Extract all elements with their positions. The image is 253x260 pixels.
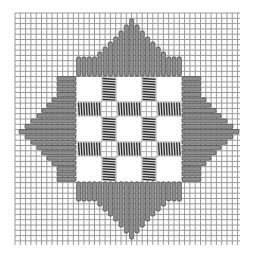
top-triangle-stitch bbox=[135, 25, 139, 76]
intersection-background bbox=[141, 101, 157, 117]
coil-stitch bbox=[172, 143, 173, 156]
coil-stitch bbox=[92, 143, 93, 156]
coil-stitch bbox=[103, 166, 116, 167]
coil-stitch bbox=[143, 92, 156, 93]
right-triangle-stitch bbox=[182, 87, 201, 91]
coil-stitch bbox=[143, 97, 156, 98]
coil-stitch bbox=[143, 121, 156, 122]
coil-stitch bbox=[143, 99, 156, 100]
coil-stitch bbox=[126, 103, 127, 116]
left-triangle-stitch bbox=[31, 119, 76, 123]
coil-stitch bbox=[103, 99, 116, 100]
coil-stitch bbox=[94, 143, 95, 156]
bottom-triangle-stitch bbox=[93, 182, 97, 201]
top-triangle-stitch bbox=[151, 42, 155, 76]
coil-stitch bbox=[97, 103, 98, 116]
coil-stitch bbox=[103, 137, 116, 138]
right-triangle-stitch bbox=[182, 167, 201, 171]
coil-stitch bbox=[134, 103, 135, 116]
window-opening bbox=[157, 157, 181, 181]
bottom-triangle-stitch bbox=[98, 182, 102, 206]
left-triangle-stitch bbox=[37, 114, 76, 118]
coil-stitch bbox=[94, 103, 95, 116]
left-triangle-stitch bbox=[57, 177, 76, 181]
coil-stitch bbox=[143, 161, 156, 162]
coil-stitch bbox=[159, 143, 160, 156]
intersection-background bbox=[141, 141, 157, 157]
bar-intersection bbox=[101, 101, 117, 117]
window-opening bbox=[157, 117, 181, 141]
right-triangle-stitch bbox=[182, 93, 201, 97]
coil-stitch bbox=[103, 97, 116, 98]
coil-stitch bbox=[143, 132, 156, 133]
coil-stitch bbox=[89, 103, 90, 116]
coil-stitch bbox=[143, 137, 156, 138]
bar-vertical-coils bbox=[117, 101, 141, 117]
bar-horizontal-coils bbox=[141, 117, 157, 141]
coil-stitch bbox=[143, 177, 156, 178]
coil-stitch bbox=[143, 119, 156, 120]
coil-stitch bbox=[159, 103, 160, 116]
coil-stitch bbox=[132, 103, 133, 116]
left-triangle-stitch bbox=[37, 146, 76, 150]
right-triangle-stitch bbox=[182, 103, 211, 107]
bottom-triangle-stitch bbox=[82, 182, 86, 201]
coil-stitch bbox=[86, 103, 87, 116]
coil-stitch bbox=[103, 132, 116, 133]
bar-horizontal-coils bbox=[101, 77, 117, 101]
top-triangle-stitch bbox=[177, 57, 181, 76]
coil-stitch bbox=[143, 79, 156, 80]
coil-stitch bbox=[137, 143, 138, 156]
bottom-triangle-stitch bbox=[172, 182, 176, 201]
top-triangle-stitch bbox=[167, 57, 171, 76]
coil-stitch bbox=[143, 172, 156, 173]
coil-stitch bbox=[139, 143, 140, 156]
coil-stitch bbox=[143, 89, 156, 90]
left-triangle-stitch bbox=[47, 156, 76, 160]
right-triangle-stitch bbox=[182, 140, 227, 144]
coil-stitch bbox=[174, 143, 175, 156]
coil-stitch bbox=[103, 124, 116, 125]
bottom-triangle-stitch bbox=[146, 182, 150, 221]
bottom-triangle-stitch bbox=[108, 182, 112, 216]
coil-stitch bbox=[103, 94, 116, 95]
bottom-triangle-stitch bbox=[87, 182, 91, 201]
coil-stitch bbox=[169, 103, 170, 116]
coil-stitch bbox=[143, 86, 156, 87]
coil-stitch bbox=[143, 169, 156, 170]
coil-stitch bbox=[84, 143, 85, 156]
coil-stitch bbox=[121, 143, 122, 156]
coil-stitch bbox=[143, 179, 156, 180]
left-triangle-stitch bbox=[25, 135, 76, 139]
coil-stitch bbox=[103, 139, 116, 140]
coil-stitch bbox=[143, 164, 156, 165]
coil-stitch bbox=[103, 121, 116, 122]
coil-stitch bbox=[161, 103, 162, 116]
top-triangle-stitch bbox=[103, 47, 107, 76]
coil-stitch bbox=[143, 94, 156, 95]
coil-stitch bbox=[103, 159, 116, 160]
top-triangle-stitch bbox=[77, 57, 81, 76]
top-triangle-stitch bbox=[161, 52, 165, 76]
coil-stitch bbox=[79, 143, 80, 156]
right-triangle-stitch bbox=[182, 82, 201, 86]
bottom-triangle-stitch bbox=[119, 182, 123, 227]
bar-horizontal-coils bbox=[141, 77, 157, 101]
top-triangle-stitch bbox=[108, 42, 112, 76]
coil-stitch bbox=[143, 81, 156, 82]
coil-stitch bbox=[81, 103, 82, 116]
bar-horizontal-coils bbox=[101, 117, 117, 141]
coil-stitch bbox=[164, 143, 165, 156]
bar-vertical-coils bbox=[117, 141, 141, 157]
bar-horizontal-coils bbox=[141, 157, 157, 181]
coil-stitch bbox=[164, 103, 165, 116]
coil-stitch bbox=[103, 164, 116, 165]
bottom-triangle-stitch bbox=[156, 182, 160, 211]
top-triangle-stitch bbox=[119, 31, 123, 76]
window-opening bbox=[77, 117, 101, 141]
top-triangle-stitch bbox=[172, 57, 176, 76]
coil-stitch bbox=[124, 103, 125, 116]
bottom-triangle-stitch bbox=[130, 182, 134, 239]
coil-stitch bbox=[166, 143, 167, 156]
coil-stitch bbox=[143, 134, 156, 135]
